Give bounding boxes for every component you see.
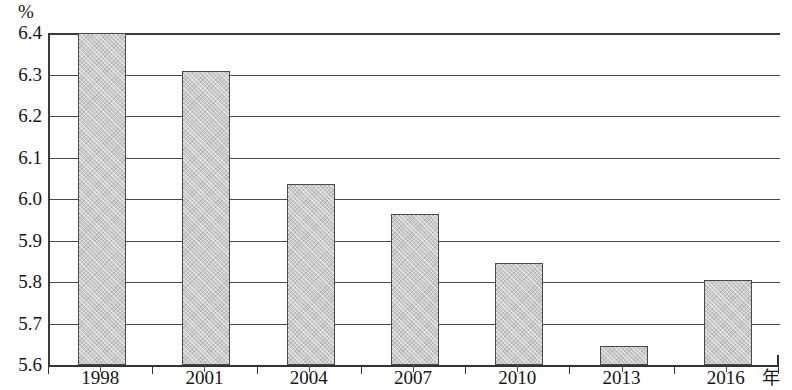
y-axis-tick-label: 5.6 (0, 355, 42, 374)
x-axis-end-cap (777, 355, 779, 365)
gridline (50, 199, 780, 200)
bar-chart: % 6.46.36.26.16.05.95.85.75.6 1998200120… (0, 0, 792, 390)
bar-2010 (495, 263, 543, 365)
x-axis-tick (674, 365, 675, 374)
bar-2013 (600, 346, 648, 365)
bar-2001 (182, 71, 230, 365)
y-axis-tick-label: 6.1 (0, 148, 42, 167)
bar-2016 (704, 280, 752, 365)
plot-area (48, 33, 780, 365)
x-axis-tick-label: 2004 (264, 368, 354, 389)
y-axis-tick-label: 5.9 (0, 231, 42, 250)
y-axis-tick-label: 6.2 (0, 106, 42, 125)
x-axis-tick (361, 365, 362, 374)
x-axis-tick (569, 365, 570, 374)
bar-2007 (391, 214, 439, 365)
x-axis-tick-label: 2013 (577, 368, 667, 389)
y-axis-tick-label: 6.3 (0, 65, 42, 84)
y-axis-tick-label: 6.0 (0, 189, 42, 208)
gridline (50, 158, 780, 159)
bar-2004 (287, 184, 335, 365)
plot-inner (50, 33, 780, 365)
bar-1998 (78, 33, 126, 365)
x-axis-tick-label: 2007 (368, 368, 458, 389)
x-axis-tick (48, 365, 49, 374)
y-axis-tick-label: 6.4 (0, 23, 42, 42)
y-axis-tick-label: 5.8 (0, 272, 42, 291)
x-axis-tick-label: 1998 (55, 368, 145, 389)
x-axis-tick-label: 2010 (472, 368, 562, 389)
x-axis-unit-label: 年 (762, 368, 780, 388)
x-axis-tick (257, 365, 258, 374)
gridline (50, 75, 780, 76)
x-axis-tick-label: 2001 (159, 368, 249, 389)
x-axis-tick-label: 2016 (681, 368, 771, 389)
y-axis-tick-label: 5.7 (0, 314, 42, 333)
gridline (50, 33, 780, 35)
y-axis-tick-labels: 6.46.36.26.16.05.95.85.75.6 (0, 0, 42, 390)
gridline (50, 116, 780, 117)
x-axis-tick (465, 365, 466, 374)
x-axis-tick (152, 365, 153, 374)
